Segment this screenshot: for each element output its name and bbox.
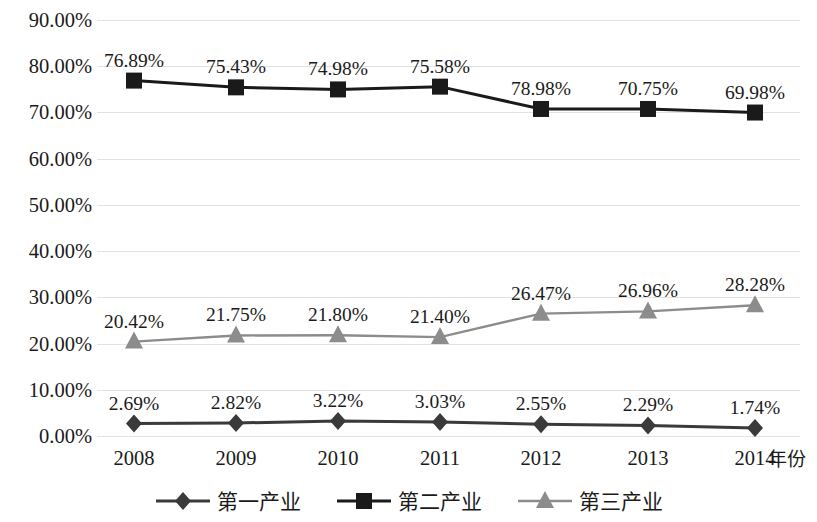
y-axis: 0.00%10.00%20.00%30.00%40.00%50.00%60.00… <box>0 20 92 436</box>
data-point-label: 74.98% <box>308 59 368 79</box>
diamond-marker <box>640 416 656 434</box>
data-point-label: 3.03% <box>415 392 465 412</box>
square-marker <box>747 105 763 121</box>
y-axis-tick-label: 30.00% <box>0 287 92 308</box>
square-marker <box>330 81 346 97</box>
triangle-marker <box>227 325 245 342</box>
x-axis-tick-label: 2010 <box>318 448 359 469</box>
x-axis-title: 年份 <box>768 450 806 469</box>
legend-label: 第二产业 <box>398 491 482 512</box>
x-axis-tick-label: 2009 <box>216 448 257 469</box>
y-axis-tick-label: 10.00% <box>0 380 92 401</box>
diamond-marker <box>175 492 191 510</box>
square-marker <box>533 101 549 117</box>
data-point-label: 2.55% <box>516 394 566 414</box>
square-marker <box>640 101 656 117</box>
legend-triangle-icon <box>516 489 574 513</box>
x-axis-tick-label: 2011 <box>420 448 460 469</box>
data-point-label: 2.69% <box>109 394 159 414</box>
data-point-label: 20.42% <box>104 312 164 332</box>
plot-area: 2.69%2.82%3.22%3.03%2.55%2.29%1.74%76.89… <box>97 20 800 436</box>
data-point-label: 26.96% <box>618 281 678 301</box>
triangle-marker <box>536 491 554 508</box>
diamond-marker <box>533 415 549 433</box>
data-point-label: 75.43% <box>206 57 266 77</box>
data-point-label: 70.75% <box>618 79 678 99</box>
legend-item[interactable]: 第三产业 <box>516 489 663 513</box>
triangle-marker <box>329 325 347 342</box>
square-marker <box>126 73 142 89</box>
diamond-marker <box>747 419 763 437</box>
chart-container: 0.00%10.00%20.00%30.00%40.00%50.00%60.00… <box>0 0 817 522</box>
diamond-marker <box>330 412 346 430</box>
legend-label: 第三产业 <box>579 491 663 512</box>
y-axis-tick-label: 80.00% <box>0 56 92 77</box>
data-point-label: 28.28% <box>725 275 785 295</box>
gridline <box>97 436 800 437</box>
data-point-label: 2.29% <box>623 395 673 415</box>
y-axis-tick-label: 0.00% <box>0 426 92 447</box>
y-axis-tick-label: 60.00% <box>0 149 92 170</box>
x-axis-tick-label: 2008 <box>114 448 155 469</box>
data-point-label: 1.74% <box>730 398 780 418</box>
legend-square-icon <box>335 489 393 513</box>
data-point-label: 78.98% <box>511 79 571 99</box>
y-axis-tick-label: 90.00% <box>0 10 92 31</box>
triangle-marker <box>746 295 764 312</box>
square-marker <box>432 79 448 95</box>
legend-item[interactable]: 第二产业 <box>335 489 482 513</box>
diamond-marker <box>432 413 448 431</box>
data-point-label: 21.80% <box>308 305 368 325</box>
x-axis: 2008200920102011201220132014 <box>97 448 800 478</box>
triangle-marker <box>532 304 550 321</box>
legend-diamond-icon <box>154 489 212 513</box>
square-marker <box>356 493 372 509</box>
data-point-label: 2.82% <box>211 393 261 413</box>
x-axis-tick-label: 2013 <box>628 448 669 469</box>
y-axis-tick-label: 40.00% <box>0 241 92 262</box>
y-axis-tick-label: 20.00% <box>0 334 92 355</box>
y-axis-tick-label: 50.00% <box>0 195 92 216</box>
data-point-label: 21.75% <box>206 305 266 325</box>
x-axis-tick-label: 2012 <box>521 448 562 469</box>
diamond-marker <box>228 414 244 432</box>
data-point-label: 75.58% <box>410 57 470 77</box>
legend: 第一产业第二产业第三产业 <box>0 489 817 513</box>
diamond-marker <box>126 415 142 433</box>
series-lines <box>97 20 800 436</box>
legend-item[interactable]: 第一产业 <box>154 489 301 513</box>
square-marker <box>228 79 244 95</box>
legend-label: 第一产业 <box>217 491 301 512</box>
data-point-label: 3.22% <box>313 391 363 411</box>
data-point-label: 69.98% <box>725 83 785 103</box>
y-axis-tick-label: 70.00% <box>0 102 92 123</box>
data-point-label: 26.47% <box>511 284 571 304</box>
data-point-label: 76.89% <box>104 51 164 71</box>
data-point-label: 21.40% <box>410 307 470 327</box>
